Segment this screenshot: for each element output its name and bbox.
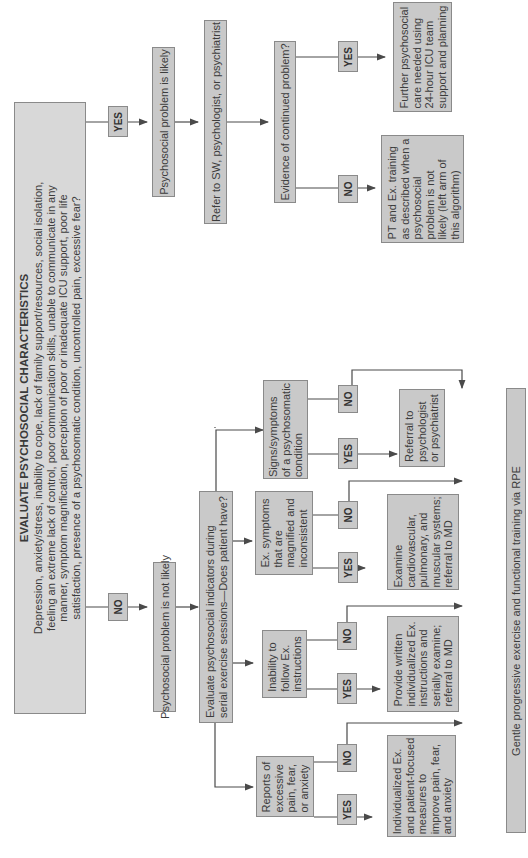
further-care-text: Further psychosocial care needed using 2… bbox=[398, 6, 448, 109]
yes-label: YES bbox=[338, 552, 358, 583]
indicator-symptoms-text: Ex. symptoms that are magnified and inco… bbox=[259, 498, 309, 567]
yes-label: YES bbox=[338, 41, 358, 72]
yes-text: YES bbox=[113, 111, 124, 131]
action-pain-text: Individualized Ex. and patient-focused m… bbox=[390, 738, 453, 835]
yes-label: YES bbox=[337, 673, 357, 704]
evaluate-indicators-box: Evaluate psychosocial indicators during … bbox=[199, 491, 233, 723]
no-label: NO bbox=[338, 175, 358, 203]
refer-text: Refer to SW, psychologist, or psychiatri… bbox=[209, 22, 222, 222]
no-text: NO bbox=[342, 751, 353, 766]
yes-label: YES bbox=[338, 438, 358, 469]
evaluate-indicators-text: Evaluate psychosocial indicators during … bbox=[204, 496, 229, 718]
action-symptoms-text: Examine cardiovascular, pulmonary, and m… bbox=[392, 496, 455, 587]
indicator-pain-text: Reports of excessive pain, fear, or anxi… bbox=[260, 761, 310, 812]
yes-label: YES bbox=[337, 794, 357, 825]
action-inability-box: Provide written individualized Ex. instr… bbox=[387, 616, 459, 712]
pt-training-box: PT and Ex. training as described when a … bbox=[381, 135, 464, 243]
yes-text: YES bbox=[343, 557, 354, 577]
indicator-inability-box: Inability to follow Ex. instructions bbox=[262, 630, 307, 698]
refer-box: Refer to SW, psychologist, or psychiatri… bbox=[204, 20, 227, 224]
main-title: EVALUATE PSYCHOSOCIAL CHARACTERISTICS bbox=[18, 108, 30, 708]
final-exercise-box: Gentle progressive exercise and function… bbox=[506, 388, 526, 833]
action-psychosomatic-box: Referral to psychologist or psychiatrist bbox=[399, 389, 445, 467]
indicator-pain-box: Reports of excessive pain, fear, or anxi… bbox=[256, 756, 314, 817]
action-symptoms-box: Examine cardiovascular, pulmonary, and m… bbox=[387, 494, 459, 590]
no-text: NO bbox=[343, 182, 354, 197]
yes-text: YES bbox=[343, 46, 354, 66]
no-text: NO bbox=[343, 508, 354, 523]
no-label: NO bbox=[337, 622, 357, 650]
problem-not-likely-box: Psychosocial problem is not likely bbox=[153, 562, 176, 712]
yes-text: YES bbox=[343, 443, 354, 463]
no-text: NO bbox=[343, 392, 354, 407]
evaluate-characteristics-box: EVALUATE PSYCHOSOCIAL CHARACTERISTICS De… bbox=[14, 102, 86, 714]
evidence-box: Evidence of continued problem? bbox=[274, 41, 296, 203]
problem-not-likely-text: Psychosocial problem is not likely bbox=[158, 555, 171, 719]
no-label: NO bbox=[108, 593, 128, 621]
no-label: NO bbox=[337, 744, 357, 772]
main-criteria-text: Depression, anxiety/stress, inability to… bbox=[32, 108, 82, 708]
yes-label: YES bbox=[108, 106, 128, 137]
action-pain-box: Individualized Ex. and patient-focused m… bbox=[387, 735, 456, 837]
action-inability-text: Provide written individualized Ex. instr… bbox=[392, 622, 455, 707]
no-label: NO bbox=[338, 501, 358, 529]
no-text: NO bbox=[113, 600, 124, 615]
yes-text: YES bbox=[342, 799, 353, 819]
yes-text: YES bbox=[342, 678, 353, 698]
final-exercise-text: Gentle progressive exercise and function… bbox=[510, 466, 523, 756]
evidence-text: Evidence of continued problem? bbox=[279, 43, 292, 200]
indicator-psychosomatic-box: Signs/symptoms of a psychosomatic condit… bbox=[263, 380, 308, 479]
no-label: NO bbox=[338, 385, 358, 413]
action-psychosomatic-text: Referral to psychologist or psychiatrist bbox=[403, 394, 441, 462]
indicator-symptoms-box: Ex. symptoms that are magnified and inco… bbox=[255, 491, 313, 575]
indicator-psychosomatic-text: Signs/symptoms of a psychosomatic condit… bbox=[267, 382, 305, 476]
indicator-inability-text: Inability to follow Ex. instructions bbox=[266, 636, 304, 692]
pt-training-text: PT and Ex. training as described when a … bbox=[385, 139, 460, 240]
problem-likely-text: Psychosocial problem is likely bbox=[157, 49, 170, 195]
further-care-box: Further psychosocial care needed using 2… bbox=[393, 2, 452, 112]
no-text: NO bbox=[342, 629, 353, 644]
problem-likely-box: Psychosocial problem is likely bbox=[152, 47, 175, 197]
